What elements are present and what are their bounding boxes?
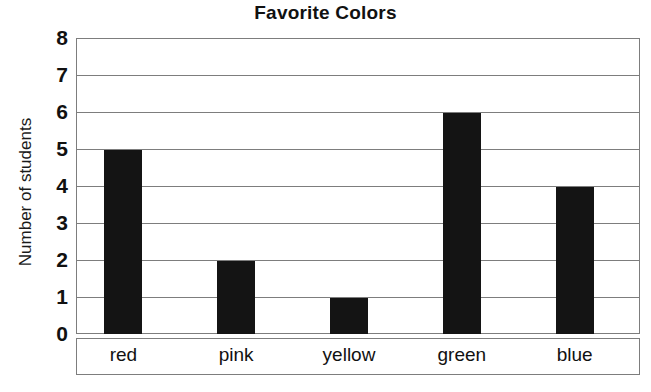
x-axis-category-label: blue — [525, 345, 625, 364]
bar — [443, 113, 481, 334]
y-tick-label: 8 — [38, 27, 68, 48]
bar — [330, 298, 368, 334]
y-tick-label: 1 — [38, 286, 68, 307]
x-axis-category-label: green — [412, 345, 512, 364]
x-axis-category-label: red — [73, 345, 173, 364]
y-axis-tick-labels: 876543210 — [38, 0, 68, 392]
x-axis-category-label: yellow — [299, 345, 399, 364]
gridline — [77, 75, 639, 76]
plot-area — [76, 38, 640, 334]
y-tick-label: 6 — [38, 101, 68, 122]
gridline — [77, 112, 639, 113]
chart-title: Favorite Colors — [0, 2, 651, 24]
y-axis-title: Number of students — [16, 62, 36, 322]
bar — [556, 187, 594, 334]
bar — [217, 261, 255, 334]
y-tick-label: 7 — [38, 64, 68, 85]
bar — [104, 150, 142, 334]
y-tick-label: 4 — [38, 175, 68, 196]
gridline — [77, 149, 639, 150]
x-axis-category-label: pink — [186, 345, 286, 364]
y-tick-label: 5 — [38, 138, 68, 159]
y-tick-label: 3 — [38, 212, 68, 233]
bar-chart: Favorite Colors Number of students 87654… — [0, 0, 651, 392]
y-tick-label: 0 — [38, 323, 68, 344]
x-axis-label-band: redpinkyellowgreenblue — [76, 338, 640, 375]
y-tick-label: 2 — [38, 249, 68, 270]
